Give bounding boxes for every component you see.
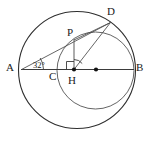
point-dot-center bbox=[94, 67, 98, 71]
label-point-d: D bbox=[107, 6, 115, 17]
label-point-h: H bbox=[68, 75, 76, 86]
segment-HD bbox=[74, 23, 111, 70]
label-point-c: C bbox=[49, 71, 56, 82]
geometry-canvas bbox=[0, 0, 152, 144]
segment-PD bbox=[74, 23, 111, 41]
label-point-b: B bbox=[136, 62, 143, 73]
label-point-p: P bbox=[67, 27, 73, 38]
geometry-figure: A B C D P H 32° bbox=[0, 0, 152, 144]
label-point-a: A bbox=[6, 62, 14, 73]
point-dot-h bbox=[72, 67, 76, 71]
label-angle-32-degrees: 32° bbox=[33, 61, 45, 70]
